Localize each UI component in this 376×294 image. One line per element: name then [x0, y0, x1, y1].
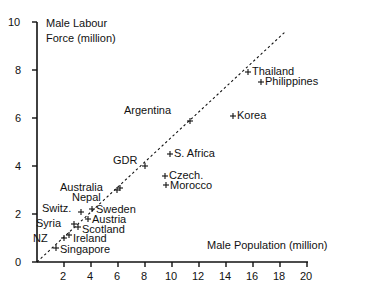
- x-tick-label-16: 16: [246, 271, 258, 282]
- marker-ireland: [66, 232, 72, 238]
- scatter-chart: 10 8 6 4 2 0 2 4 6 8 10 12 14 16 18 20 M…: [0, 0, 376, 294]
- point-label-singapore: Singapore: [60, 244, 110, 255]
- x-tick-label-18: 18: [273, 271, 285, 282]
- y-tick-label-0: 0: [15, 257, 21, 268]
- x-tick-label-6: 6: [114, 271, 120, 282]
- point-label-argentina: Argentina: [124, 105, 171, 116]
- point-label-gdr: GDR: [113, 155, 137, 166]
- marker-switz: [78, 209, 84, 215]
- point-label-philippines: Philippines: [265, 76, 318, 87]
- marker-syria: [71, 221, 77, 227]
- y-tick-label-10: 10: [8, 17, 20, 28]
- marker-scotland: [75, 224, 81, 230]
- x-tick-label-14: 14: [219, 271, 231, 282]
- y-axis-title-line2: Force (million): [46, 32, 116, 45]
- point-label-switz: Switz.: [42, 203, 71, 214]
- marker-korea: [230, 113, 236, 119]
- point-label-s-africa: S. Africa: [174, 148, 215, 159]
- reference-trend-line: [37, 32, 285, 262]
- marker-singapore: [53, 245, 59, 251]
- marker-morocco: [163, 182, 169, 188]
- point-label-nepal: Nepal: [72, 192, 101, 203]
- x-tick-label-4: 4: [87, 271, 93, 282]
- marker-gdr: [142, 163, 148, 169]
- x-tick-label-8: 8: [141, 271, 147, 282]
- y-axis-title-line1: Male Labour: [46, 17, 107, 30]
- marker-philippines: [258, 79, 264, 85]
- x-axis-title: Male Population (million): [207, 239, 327, 252]
- marker-thailand: [245, 69, 251, 75]
- y-tick-label-4: 4: [15, 161, 21, 172]
- x-tick-label-2: 2: [60, 271, 66, 282]
- point-label-nz: NZ: [33, 233, 48, 244]
- marker-nz: [61, 235, 67, 241]
- y-tick-label-6: 6: [15, 113, 21, 124]
- marker-czech: [162, 173, 168, 179]
- point-label-syria: Syria: [36, 218, 61, 229]
- x-tick-label-12: 12: [192, 271, 204, 282]
- x-tick-label-20: 20: [300, 271, 312, 282]
- y-tick-label-2: 2: [15, 209, 21, 220]
- marker-s-africa: [167, 151, 173, 157]
- point-label-korea: Korea: [237, 110, 266, 121]
- y-tick-label-8: 8: [15, 65, 21, 76]
- x-tick-label-10: 10: [165, 271, 177, 282]
- marker-sweden: [89, 206, 95, 212]
- point-label-morocco: Morocco: [170, 180, 212, 191]
